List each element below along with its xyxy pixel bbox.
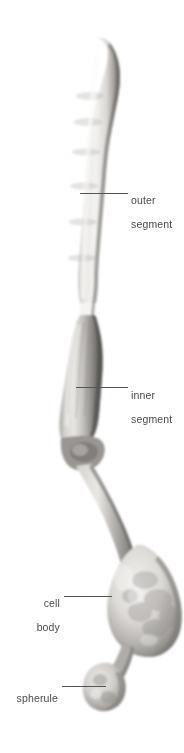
label-cell-body-line1: cell	[8, 597, 60, 609]
leader-line-spherule	[62, 686, 106, 687]
photoreceptor-figure: outer segment inner segment cell body sp…	[0, 0, 184, 753]
label-cell-body-line2: body	[8, 621, 60, 633]
label-spherule-line1: spherule	[2, 692, 58, 704]
label-outer-segment-line1: outer	[131, 194, 172, 206]
label-outer-segment-line2: segment	[131, 218, 172, 230]
label-outer-segment: outer segment	[131, 182, 172, 242]
label-inner-segment-line1: inner	[131, 389, 172, 401]
leader-line-cell-body	[64, 596, 112, 597]
leader-line-outer-segment	[80, 193, 128, 194]
leader-line-inner-segment	[76, 387, 128, 388]
label-spherule: spherule	[2, 680, 58, 716]
label-inner-segment-line2: segment	[131, 413, 172, 425]
label-cell-body: cell body	[8, 585, 60, 645]
label-inner-segment: inner segment	[131, 377, 172, 437]
